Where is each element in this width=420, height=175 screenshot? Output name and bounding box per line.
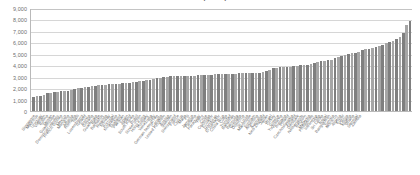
bar xyxy=(306,65,309,111)
bar xyxy=(378,46,381,111)
bar xyxy=(115,84,118,111)
y-axis-tick-label: 1,000 xyxy=(13,98,27,104)
bar xyxy=(111,84,114,111)
chart-title: Sales per capita xyxy=(0,0,420,1)
bar xyxy=(337,57,340,111)
bar xyxy=(351,53,354,111)
bar xyxy=(166,77,169,111)
bar xyxy=(121,83,124,111)
bar xyxy=(152,79,155,111)
bar xyxy=(63,91,66,111)
bar xyxy=(36,96,39,111)
bar xyxy=(108,84,111,111)
bar xyxy=(392,41,395,111)
bar xyxy=(262,72,265,111)
bar xyxy=(145,80,148,111)
bar xyxy=(357,52,360,112)
bar xyxy=(87,87,90,111)
bar xyxy=(149,80,152,111)
y-axis-tick-label: 2,000 xyxy=(13,86,27,92)
bar xyxy=(316,62,319,111)
bar xyxy=(231,74,234,111)
bar xyxy=(125,83,128,111)
bar xyxy=(385,43,388,111)
bar xyxy=(292,66,295,111)
bar xyxy=(94,86,97,111)
bar xyxy=(97,85,100,111)
bar xyxy=(77,88,80,111)
bar xyxy=(402,33,405,111)
bar xyxy=(207,75,210,111)
bar xyxy=(296,66,299,111)
bar xyxy=(180,76,183,111)
y-axis-tick-label: 8,000 xyxy=(13,17,27,23)
bar xyxy=(156,78,159,111)
bar xyxy=(265,71,268,111)
bar xyxy=(282,67,285,111)
bar xyxy=(334,58,337,111)
bar xyxy=(67,91,70,111)
bar xyxy=(368,49,371,111)
bar-series xyxy=(32,9,412,111)
bar xyxy=(32,97,35,111)
bar xyxy=(327,60,330,111)
bar xyxy=(388,42,391,111)
y-axis-tick-label: 5,000 xyxy=(13,52,27,58)
bar xyxy=(49,93,52,111)
bar xyxy=(173,76,176,111)
bar xyxy=(241,73,244,111)
bar xyxy=(70,90,73,111)
bar xyxy=(200,75,203,111)
bar xyxy=(299,65,302,111)
y-axis-tick-label: 9,000 xyxy=(13,6,27,12)
bar xyxy=(190,76,193,111)
bar xyxy=(310,64,313,111)
bar xyxy=(303,65,306,111)
y-axis-tick-label: 3,000 xyxy=(13,75,27,81)
bar xyxy=(56,92,59,111)
bar xyxy=(330,60,333,112)
bar xyxy=(405,25,408,111)
bar xyxy=(375,47,378,111)
bar xyxy=(135,82,138,111)
y-axis-tick-label: 4,000 xyxy=(13,63,27,69)
bar xyxy=(60,91,63,111)
bar xyxy=(84,87,87,111)
bar xyxy=(313,63,316,111)
bar xyxy=(142,81,145,111)
bar xyxy=(361,50,364,111)
bar xyxy=(138,81,141,111)
bar xyxy=(43,95,46,111)
bar xyxy=(344,55,347,111)
bar xyxy=(203,75,206,111)
bar xyxy=(217,74,220,111)
bar xyxy=(176,76,179,111)
x-axis-tick xyxy=(409,113,412,175)
bar xyxy=(39,96,42,111)
bar xyxy=(128,83,131,111)
bar xyxy=(371,48,374,111)
bar xyxy=(248,73,251,111)
bar xyxy=(210,75,213,111)
y-axis-tick-label: 0 xyxy=(24,109,27,115)
bar xyxy=(275,68,278,111)
bar-chart: Sales per capita 01,0002,0003,0004,0005,… xyxy=(0,0,420,175)
bar xyxy=(80,88,83,111)
bar xyxy=(53,92,56,111)
bar xyxy=(162,77,165,111)
bar xyxy=(169,76,172,111)
bar xyxy=(245,73,248,111)
bar xyxy=(46,93,49,111)
plot-area xyxy=(30,9,412,112)
bar xyxy=(101,85,104,111)
bar xyxy=(251,73,254,111)
bar xyxy=(186,76,189,111)
bar xyxy=(227,74,230,111)
bar xyxy=(395,39,398,111)
bar xyxy=(347,54,350,111)
bar xyxy=(234,74,237,111)
bar xyxy=(381,45,384,111)
bar xyxy=(238,73,241,111)
bar xyxy=(159,78,162,111)
bar xyxy=(193,76,196,111)
